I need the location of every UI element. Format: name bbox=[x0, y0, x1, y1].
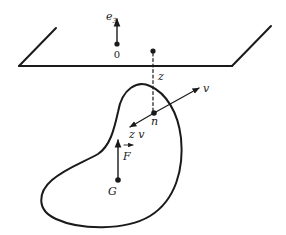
depth-label: z bbox=[157, 70, 164, 83]
basis-vector-e3: e3 bbox=[106, 10, 118, 44]
centroid-label: G bbox=[108, 185, 117, 198]
diagram-canvas: e3 0 z n v z v F G bbox=[0, 0, 286, 235]
plane bbox=[19, 26, 271, 66]
plane-left-edge bbox=[19, 28, 56, 66]
origin-point bbox=[114, 41, 119, 46]
normal-vector-label: v bbox=[203, 82, 210, 95]
body-outline bbox=[41, 84, 181, 227]
pressure-vector-label: z v bbox=[128, 128, 145, 141]
point-n-label: n bbox=[151, 115, 158, 128]
centroid-point bbox=[115, 177, 121, 183]
origin-label: 0 bbox=[114, 49, 120, 60]
force-label: F bbox=[122, 150, 131, 163]
e3-label: e3 bbox=[106, 10, 118, 25]
plane-right-edge bbox=[232, 26, 271, 66]
